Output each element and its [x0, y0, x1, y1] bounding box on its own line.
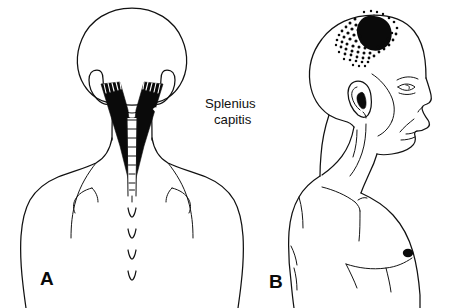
panel-a-cervical-spine — [127, 118, 137, 196]
anatomy-illustration: A Splenius capitis — [0, 0, 460, 308]
panel-a-letter: A — [40, 268, 54, 289]
figure-root: A Splenius capitis — [0, 0, 460, 308]
muscle-name-line-2: capitis — [214, 112, 252, 127]
panel-b-nipple-marker — [403, 249, 413, 257]
muscle-name-line-1: Splenius — [205, 96, 256, 111]
panel-b-letter: B — [269, 271, 283, 292]
